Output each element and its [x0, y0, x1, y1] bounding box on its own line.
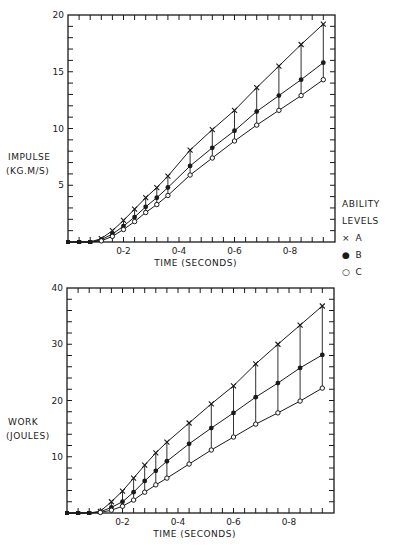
open-circle-icon — [321, 77, 325, 81]
series-line-b — [67, 355, 322, 513]
plot-frame — [68, 15, 335, 242]
open-circle-icon — [166, 193, 170, 197]
y-tick-label: 30 — [52, 339, 64, 349]
filled-circle-icon — [165, 459, 170, 464]
open-circle-icon — [255, 123, 259, 127]
legend-item-a: × A — [342, 230, 380, 247]
legend-item-c: ○ C — [342, 264, 380, 281]
filled-circle-icon — [132, 215, 137, 220]
filled-circle-icon — [276, 381, 281, 386]
x-tick-label: 0-6 — [227, 246, 242, 256]
filled-circle-icon — [187, 441, 192, 446]
filled-circle-icon — [143, 204, 148, 209]
x-marker-icon: × — [342, 230, 352, 247]
open-circle-icon — [188, 173, 192, 177]
open-circle-icon — [210, 156, 214, 160]
open-circle-icon: ○ — [342, 264, 352, 281]
open-circle-icon — [131, 498, 135, 502]
x-tick-label: 0-8 — [283, 246, 298, 256]
open-circle-icon — [109, 508, 113, 512]
open-circle-icon — [232, 139, 236, 143]
filled-circle-icon — [120, 499, 125, 504]
data-point — [87, 511, 91, 515]
filled-circle-icon — [232, 128, 237, 133]
filled-circle-icon — [231, 410, 236, 415]
impulse-chart: 51015200-20-40-60-8TIME (SECONDS)IMPULSE… — [6, 10, 335, 268]
open-circle-icon — [132, 219, 136, 223]
open-circle-icon — [144, 210, 148, 214]
plot-frame — [67, 288, 334, 513]
x-tick-label: 0-4 — [172, 246, 187, 256]
legend-title-line1: ABILITY — [342, 196, 380, 213]
open-circle-icon — [143, 490, 147, 494]
y-tick-label: 40 — [52, 283, 64, 293]
y-tick-label: 10 — [53, 124, 65, 134]
y-axis-unit: (JOULES) — [6, 431, 50, 441]
open-circle-icon — [320, 386, 324, 390]
filled-circle-icon — [188, 164, 193, 169]
data-point — [66, 240, 70, 244]
y-axis-unit: (KG.M/S) — [6, 166, 49, 176]
y-tick-label: 20 — [52, 396, 64, 406]
open-circle-icon — [120, 504, 124, 508]
y-tick-label: 10 — [52, 452, 64, 462]
legend-title-line2: LEVELS — [342, 213, 380, 230]
y-tick-label: 5 — [58, 180, 64, 190]
series-line-b — [68, 63, 323, 242]
filled-circle-icon: ● — [342, 247, 352, 264]
y-axis-label: WORK — [8, 417, 39, 427]
open-circle-icon — [154, 483, 158, 487]
filled-circle-icon — [321, 60, 326, 65]
open-circle-icon — [155, 202, 159, 206]
filled-circle-icon — [254, 109, 259, 114]
open-circle-icon — [277, 108, 281, 112]
series-line-a — [68, 24, 323, 242]
filled-circle-icon — [210, 145, 215, 150]
filled-circle-icon — [253, 395, 258, 400]
open-circle-icon — [99, 239, 103, 243]
data-point — [77, 240, 81, 244]
open-circle-icon — [121, 227, 125, 231]
x-tick-label: 0-2 — [115, 517, 130, 527]
data-point — [88, 240, 92, 244]
series-line-c — [67, 388, 322, 513]
open-circle-icon — [254, 422, 258, 426]
x-tick-label: 0-2 — [116, 246, 131, 256]
filled-circle-icon — [154, 195, 159, 200]
open-circle-icon — [209, 448, 213, 452]
legend: ABILITY LEVELS × A ● B ○ C — [342, 196, 380, 281]
x-axis-label: TIME (SECONDS) — [153, 258, 237, 268]
open-circle-icon — [299, 93, 303, 97]
open-circle-icon — [298, 399, 302, 403]
open-circle-icon — [98, 510, 102, 514]
x-tick-label: 0-6 — [226, 517, 241, 527]
filled-circle-icon — [142, 479, 147, 484]
open-circle-icon — [231, 435, 235, 439]
open-circle-icon — [276, 411, 280, 415]
filled-circle-icon — [299, 77, 304, 82]
open-circle-icon — [110, 234, 114, 238]
data-point — [65, 511, 69, 515]
filled-circle-icon — [166, 185, 171, 190]
y-tick-label: 20 — [53, 10, 65, 20]
y-tick-label: 15 — [53, 67, 64, 77]
filled-circle-icon — [209, 426, 214, 431]
filled-circle-icon — [298, 365, 303, 370]
work-chart: 102030400-20-40-60-8TIME (SECONDS)WORK(J… — [6, 283, 334, 539]
open-circle-icon — [165, 476, 169, 480]
data-point — [76, 511, 80, 515]
filled-circle-icon — [153, 468, 158, 473]
y-axis-label: IMPULSE — [8, 152, 50, 162]
filled-circle-icon — [131, 490, 136, 495]
filled-circle-icon — [277, 93, 282, 98]
figure-canvas: 51015200-20-40-60-8TIME (SECONDS)IMPULSE… — [0, 0, 394, 548]
open-circle-icon — [187, 462, 191, 466]
x-tick-label: 0-4 — [171, 517, 186, 527]
x-tick-label: 0-8 — [282, 517, 297, 527]
filled-circle-icon — [320, 353, 325, 358]
x-axis-label: TIME (SECONDS) — [152, 529, 236, 539]
legend-item-b: ● B — [342, 247, 380, 264]
